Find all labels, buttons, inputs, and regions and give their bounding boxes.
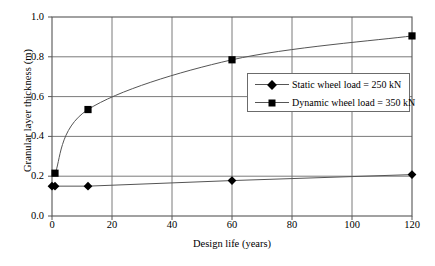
legend-marker-diamond-icon xyxy=(255,78,289,92)
plot-area xyxy=(0,0,435,266)
legend-label-static: Static wheel load = 250 kN xyxy=(292,79,401,90)
data-point-diamond xyxy=(84,182,93,191)
data-point-diamond xyxy=(228,176,237,185)
chart-figure: Granular layer thickness (m) Design life… xyxy=(0,0,435,266)
data-point-diamond xyxy=(408,170,417,179)
data-point-square xyxy=(51,170,58,177)
data-point-square xyxy=(408,32,415,39)
legend-item-static: Static wheel load = 250 kN xyxy=(248,75,409,94)
chart-legend: Static wheel load = 250 kN Dynamic wheel… xyxy=(247,73,410,112)
legend-label-dynamic: Dynamic wheel load = 350 kN xyxy=(292,97,415,108)
data-point-square xyxy=(84,106,91,113)
data-point-square xyxy=(228,56,235,63)
legend-marker-square-icon xyxy=(255,96,289,110)
legend-item-dynamic: Dynamic wheel load = 350 kN xyxy=(248,93,409,112)
